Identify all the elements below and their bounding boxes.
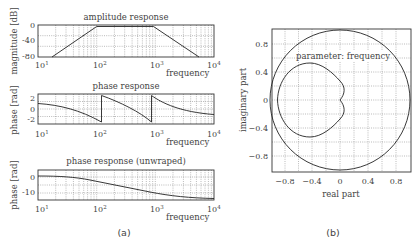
unwrap-xlabel: frequency (166, 212, 209, 222)
phase-response-plot: phase response 2 0 -2 phase [rad] 101 10… (9, 81, 221, 147)
b-ytick-3: −0.4 (249, 124, 268, 133)
amp-ytick-0: 0 (30, 21, 35, 30)
b-xtick-0: −0.8 (275, 177, 294, 186)
unwrap-ylabel: phase [rad] (9, 160, 19, 209)
b-xtick-1: −0.4 (302, 177, 321, 186)
svg-text:101: 101 (35, 60, 49, 70)
amplitude-curve (52, 27, 199, 58)
b-ytick-1: 0.4 (255, 68, 268, 77)
amplitude-frame (38, 25, 214, 57)
b-ytick-0: 0.8 (255, 40, 268, 49)
svg-text:101: 101 (35, 129, 49, 139)
figure: amplitude response 0 -40 -80 magnitude [… (0, 0, 419, 249)
svg-text:102: 102 (93, 60, 107, 70)
b-xlabel: real part (322, 189, 360, 199)
svg-text:103: 103 (150, 129, 164, 139)
amplitude-response-plot: amplitude response 0 -40 -80 magnitude [… (9, 7, 221, 78)
svg-text:101: 101 (35, 204, 49, 214)
b-xtick-3: 0.4 (362, 177, 375, 186)
b-ytick-2: 0 (263, 96, 268, 105)
amp-ylabel: magnitude [dB] (9, 7, 19, 74)
phase-xlabel: frequency (166, 137, 209, 147)
unwrap-title: phase response (unwraped) (66, 156, 186, 166)
unwrap-grid (38, 170, 214, 200)
unwrapped-phase-plot: phase response (unwraped) 0 -10 phase [r… (9, 156, 221, 222)
amplitude-title: amplitude response (84, 12, 169, 22)
phase-grid (38, 94, 214, 124)
amp-ytick-2: -80 (22, 52, 35, 61)
b-xtick-4: 0.8 (390, 177, 403, 186)
unwrap-ytick-1: -10 (22, 188, 35, 197)
amplitude-grid (38, 25, 214, 57)
phase-title: phase response (93, 81, 160, 91)
caption-b: (b) (326, 227, 339, 238)
amp-xlabel: frequency (166, 68, 209, 78)
phase-ytick-1: 0 (30, 105, 35, 114)
b-ytick-4: −0.8 (249, 152, 268, 161)
svg-text:103: 103 (150, 204, 164, 214)
unwrap-ytick-0: 0 (30, 173, 35, 182)
phase-ytick-0: 2 (30, 94, 35, 103)
b-ylabel: imaginary part (238, 67, 248, 132)
phase-ytick-2: -2 (27, 115, 35, 124)
b-xtick-2: 0 (337, 177, 342, 186)
svg-text:102: 102 (93, 129, 107, 139)
unwrap-curve (38, 176, 214, 199)
frequency-annotation: parameter: frequency (296, 51, 390, 61)
amp-ytick-1: -40 (22, 36, 35, 45)
svg-text:102: 102 (93, 204, 107, 214)
complex-plane-plot: parameter: frequency 0.8 0.4 0 −0.4 −0.8… (238, 29, 411, 199)
svg-text:103: 103 (150, 60, 164, 70)
caption-a: (a) (117, 227, 130, 238)
phase-ylabel: phase [rad] (9, 85, 19, 134)
